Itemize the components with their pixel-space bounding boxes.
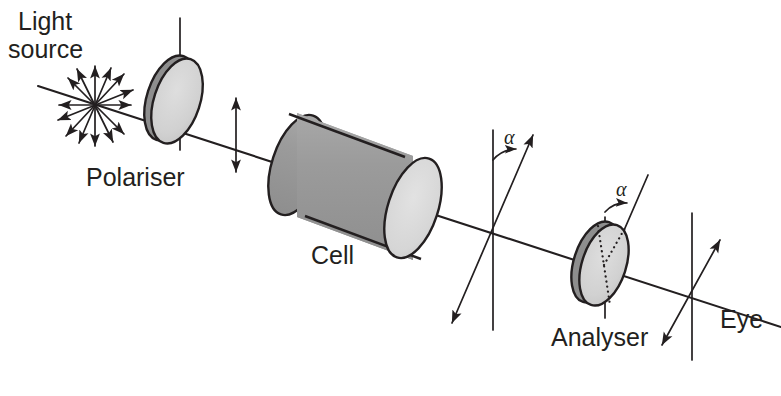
alpha1-label: α (504, 126, 515, 148)
analyser-label: Analyser (551, 323, 648, 351)
light-source-starburst (58, 66, 133, 146)
rotated-polarisation-marker: α (452, 126, 533, 330)
eye-label: Eye (720, 305, 763, 333)
alpha2-label: α (616, 178, 627, 200)
alpha1-angle-arc (493, 149, 516, 160)
polarimeter-diagram: α α Light source Polari (0, 0, 781, 396)
analyser-group[interactable]: α (562, 175, 648, 318)
sample-cell-cylinder[interactable] (257, 108, 453, 265)
cell-label: Cell (311, 241, 354, 269)
light-source-label-line2: source (8, 35, 83, 63)
eye-polarisation-marker (662, 213, 720, 360)
polariser-group[interactable] (135, 18, 213, 150)
eye-tilted-double-arrow (662, 240, 720, 345)
alpha2-angle-arc (605, 203, 627, 212)
diagram-canvas: α α Light source Polari (0, 0, 781, 396)
polariser-label: Polariser (86, 163, 185, 191)
light-source-label-line1: Light (18, 7, 72, 35)
